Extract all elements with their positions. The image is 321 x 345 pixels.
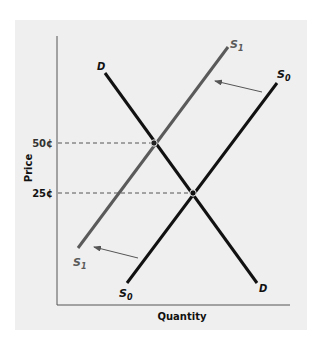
label-s0-bottom: S0: [119, 287, 133, 302]
label-s0-top: S0: [277, 68, 291, 83]
supply-curve-s1: [78, 47, 228, 248]
x-axis-label: Quantity: [158, 311, 207, 322]
supply-curve-s0: [127, 83, 277, 283]
shift-arrow-lower-icon: [94, 247, 138, 258]
equilibrium-point-25: [190, 190, 196, 196]
demand-curve: [105, 73, 257, 283]
price-tick-25: 25¢: [32, 188, 53, 199]
price-tick-50: 50¢: [32, 138, 53, 149]
equilibrium-point-50: [151, 140, 157, 146]
shift-arrow-upper-icon: [215, 81, 262, 92]
y-axis-label: Price: [23, 154, 34, 183]
label-s1-top: S1: [230, 38, 244, 53]
label-s1-bottom: S1: [73, 256, 87, 271]
label-d-bottom: D: [259, 283, 267, 294]
supply-demand-diagram: S1 S0 D S1 S0 D 50¢ 25¢ Price Quantity: [0, 0, 321, 345]
label-d-top: D: [97, 61, 105, 72]
